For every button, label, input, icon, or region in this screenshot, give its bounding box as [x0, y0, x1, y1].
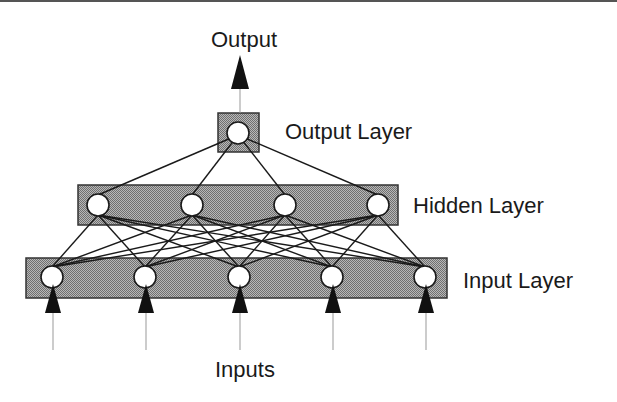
output-arrow-icon [231, 55, 249, 89]
hidden-node [367, 194, 389, 216]
input-node [134, 266, 156, 288]
inputs-label: Inputs [215, 359, 275, 381]
hidden-node [181, 194, 203, 216]
input-layer-label: Input Layer [463, 270, 573, 292]
hidden-layer-label: Hidden Layer [413, 195, 544, 217]
input-node [321, 266, 343, 288]
output-layer-label: Output Layer [285, 121, 412, 143]
hidden-node [274, 194, 296, 216]
output-node [227, 122, 249, 144]
input-node [41, 266, 63, 288]
hidden-node [87, 194, 109, 216]
output-label: Output [211, 29, 277, 51]
input-node [228, 266, 250, 288]
input-node [414, 266, 436, 288]
